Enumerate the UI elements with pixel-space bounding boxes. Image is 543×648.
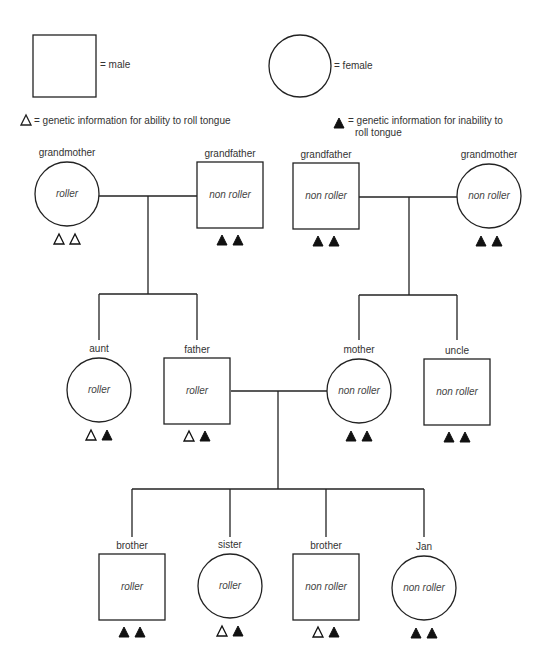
legend: = male = female = genetic information fo… (21, 35, 503, 138)
person-gf-left: grandfathernon roller (197, 148, 263, 245)
person-sister: sisterroller (198, 539, 262, 636)
open-triangle-icon (217, 626, 227, 636)
open-triangle-icon (313, 627, 323, 637)
open-triangle-icon (86, 430, 96, 440)
open-triangle-icon (184, 431, 194, 441)
pedigree-diagram: = male = female = genetic information fo… (0, 0, 543, 648)
person-brother1: brotherroller (99, 540, 165, 637)
legend-male-square-icon (33, 35, 96, 97)
relation-label: sister (218, 539, 243, 550)
phenotype-label: roller (186, 385, 209, 396)
pedigree-canvas: = male = female = genetic information fo… (0, 0, 543, 648)
filled-triangle-icon (346, 431, 356, 441)
filled-triangle-icon (313, 236, 323, 246)
filled-triangle-icon (476, 236, 486, 246)
filled-triangle-icon (233, 235, 243, 245)
filled-triangle-icon (329, 236, 339, 246)
phenotype-label: non roller (403, 582, 445, 593)
phenotype-label: non roller (436, 386, 478, 397)
phenotype-label: non roller (209, 189, 251, 200)
filled-triangle-icon (119, 627, 129, 637)
person-father: fatherroller (164, 344, 230, 441)
filled-triangle-icon (329, 627, 339, 637)
relation-label: grandfather (204, 148, 256, 159)
legend-filled-triangle-label-line1: = genetic information for inability to (348, 115, 503, 126)
person-gm-right: grandmothernon roller (457, 149, 521, 246)
connectors (99, 196, 457, 537)
person-gf-right: grandfathernon roller (293, 149, 359, 246)
phenotype-label: non roller (468, 190, 510, 201)
legend-filled-triangle-label-line2: roll tongue (355, 127, 402, 138)
open-triangle-icon (70, 234, 80, 244)
relation-label: brother (310, 540, 342, 551)
person-gm-left: grandmotherroller (35, 147, 99, 244)
relation-label: grandmother (39, 147, 96, 158)
open-triangle-icon (54, 234, 64, 244)
legend-open-triangle-label: = genetic information for ability to rol… (34, 115, 231, 126)
person-uncle: unclenon roller (424, 345, 490, 442)
relation-label: grandmother (461, 149, 518, 160)
filled-triangle-icon (233, 626, 243, 636)
person-jan: Jannon roller (392, 541, 456, 638)
relation-label: aunt (89, 343, 109, 354)
filled-triangle-icon (411, 628, 421, 638)
filled-triangle-icon (492, 236, 502, 246)
filled-triangle-icon (362, 431, 372, 441)
legend-filled-triangle-icon (334, 118, 344, 128)
phenotype-label: roller (88, 384, 111, 395)
phenotype-label: non roller (305, 581, 347, 592)
relation-label: grandfather (300, 149, 352, 160)
phenotype-label: roller (56, 188, 79, 199)
phenotype-label: non roller (338, 385, 380, 396)
relation-label: Jan (416, 541, 432, 552)
legend-open-triangle-icon (21, 115, 31, 125)
relation-label: uncle (445, 345, 469, 356)
legend-female-label: = female (334, 60, 373, 71)
filled-triangle-icon (135, 627, 145, 637)
person-aunt: auntroller (67, 343, 131, 440)
legend-male-label: = male (100, 59, 131, 70)
filled-triangle-icon (427, 628, 437, 638)
phenotype-label: roller (121, 581, 144, 592)
phenotype-label: non roller (305, 190, 347, 201)
phenotype-label: roller (219, 580, 242, 591)
relation-label: father (184, 344, 210, 355)
legend-female-circle-icon (269, 35, 331, 97)
filled-triangle-icon (217, 235, 227, 245)
filled-triangle-icon (200, 431, 210, 441)
filled-triangle-icon (102, 430, 112, 440)
relation-label: mother (343, 344, 375, 355)
filled-triangle-icon (444, 432, 454, 442)
relation-label: brother (116, 540, 148, 551)
person-mother: mothernon roller (327, 344, 391, 441)
filled-triangle-icon (460, 432, 470, 442)
person-brother2: brothernon roller (293, 540, 359, 637)
